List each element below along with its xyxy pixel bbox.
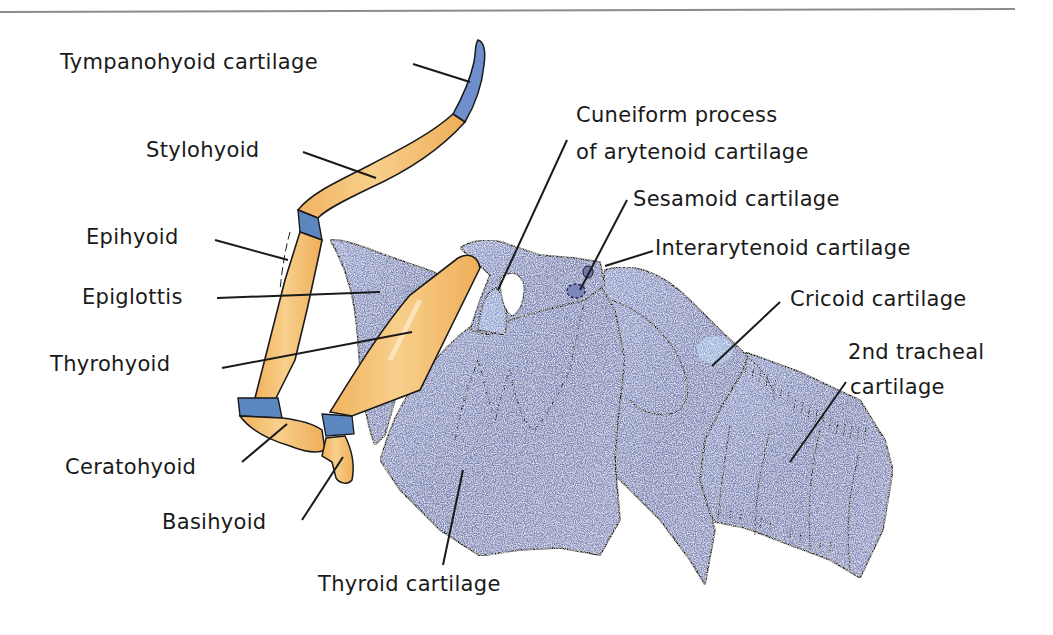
label-thyroid-cartilage: Thyroid cartilage bbox=[318, 572, 501, 596]
label-cricoid-cartilage: Cricoid cartilage bbox=[790, 287, 967, 311]
leader-basihyoid bbox=[302, 457, 343, 520]
diagram-canvas: Tympanohyoid cartilage Stylohyoid Epihyo… bbox=[0, 0, 1053, 635]
epihyoid-shape bbox=[255, 232, 322, 400]
anatomy-drawing bbox=[0, 0, 1053, 635]
leader-stylohyoid bbox=[303, 152, 376, 178]
label-cuneiform-line2: of arytenoid cartilage bbox=[576, 137, 809, 167]
leader-epihyoid bbox=[215, 240, 288, 260]
stylohyoid-shape bbox=[298, 114, 465, 218]
label-epiglottis: Epiglottis bbox=[82, 285, 183, 309]
leader-interarytenoid bbox=[605, 251, 653, 266]
joint-cartilage-lower bbox=[238, 398, 282, 418]
label-cuneiform-line1: Cuneiform process bbox=[576, 100, 777, 130]
label-interarytenoid-cartilage: Interarytenoid cartilage bbox=[655, 236, 911, 260]
label-epihyoid: Epihyoid bbox=[86, 225, 179, 249]
label-sesamoid-cartilage: Sesamoid cartilage bbox=[633, 187, 840, 211]
top-rule-line bbox=[0, 9, 1015, 12]
joint-cartilage-thyrohyoid bbox=[322, 414, 354, 436]
label-thyrohyoid: Thyrohyoid bbox=[50, 352, 170, 376]
basihyoid-shape bbox=[322, 436, 353, 483]
label-tracheal-line1: 2nd tracheal bbox=[848, 337, 985, 367]
label-stylohyoid: Stylohyoid bbox=[146, 138, 259, 162]
label-tympanohyoid-cartilage: Tympanohyoid cartilage bbox=[60, 50, 318, 74]
label-basihyoid: Basihyoid bbox=[162, 510, 267, 534]
label-ceratohyoid: Ceratohyoid bbox=[65, 455, 196, 479]
ceratohyoid-shape bbox=[240, 416, 325, 452]
label-tracheal-line2: cartilage bbox=[850, 372, 945, 402]
leader-tympanohyoid bbox=[413, 64, 470, 82]
